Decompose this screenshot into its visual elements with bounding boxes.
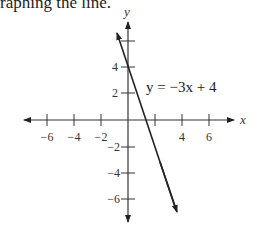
y-tick-label: −4	[107, 166, 120, 180]
x-tick-label: −2	[95, 130, 108, 144]
x-tick-label: −4	[68, 130, 81, 144]
line-series-end	[160, 162, 177, 212]
y-tick-label: 2	[112, 86, 118, 100]
x-axis-label: x	[239, 112, 246, 127]
y-axis-label: y	[122, 4, 130, 19]
coordinate-plane: −6 −4 −2 4 6 4 2 −2 −4 −6 x y y = −3x + …	[0, 0, 260, 231]
y-tick-label: −6	[107, 192, 120, 206]
x-tick-label: −6	[41, 130, 54, 144]
y-tick-label: 4	[112, 60, 118, 74]
equation-label: y = −3x + 4	[146, 79, 217, 95]
x-tick-label: 6	[206, 130, 212, 144]
y-tick-label: −2	[107, 140, 120, 154]
x-tick-label: 4	[179, 130, 185, 144]
